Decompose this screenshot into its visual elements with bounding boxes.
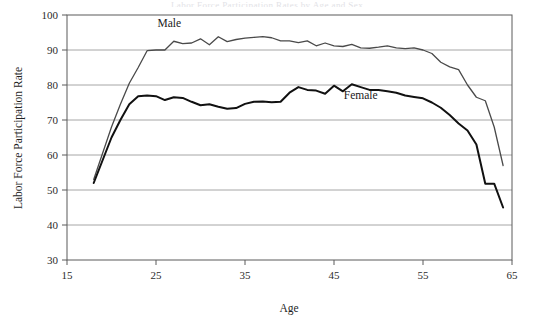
series-annotations: MaleFemale xyxy=(158,17,378,101)
y-tick-label-60: 60 xyxy=(47,149,59,161)
x-axis-ticks xyxy=(67,260,512,265)
y-tick-label-90: 90 xyxy=(47,44,59,56)
plot-frame xyxy=(67,15,512,260)
x-tick-label-45: 45 xyxy=(329,269,341,281)
y-tick-label-30: 30 xyxy=(47,254,59,266)
y-axis-ticks xyxy=(62,15,67,260)
y-tick-label-70: 70 xyxy=(47,114,59,126)
x-tick-label-55: 55 xyxy=(418,269,430,281)
y-axis-title: Labor Force Participation Rate xyxy=(12,67,25,209)
x-axis-title: Age xyxy=(279,302,298,315)
y-tick-label-40: 40 xyxy=(47,219,59,231)
x-tick-label-35: 35 xyxy=(240,269,252,281)
series-label-female: Female xyxy=(344,89,378,101)
x-tick-label-25: 25 xyxy=(151,269,163,281)
y-tick-label-80: 80 xyxy=(47,79,59,91)
data-series-group xyxy=(94,37,503,208)
cut-off-header-text: Labor Force Participation Rates by Age a… xyxy=(0,0,534,7)
series-label-male: Male xyxy=(158,17,182,29)
series-line-female xyxy=(94,84,503,207)
y-tick-label-50: 50 xyxy=(47,184,59,196)
x-tick-label-15: 15 xyxy=(62,269,74,281)
chart-container: Labor Force Participation Rates by Age a… xyxy=(0,0,534,331)
x-tick-label-65: 65 xyxy=(507,269,519,281)
x-axis-tick-labels: 152535455565 xyxy=(62,269,519,281)
line-chart: 30405060708090100 152535455565 MaleFemal… xyxy=(0,0,534,331)
y-tick-label-100: 100 xyxy=(42,9,59,21)
y-axis-tick-labels: 30405060708090100 xyxy=(42,9,59,266)
